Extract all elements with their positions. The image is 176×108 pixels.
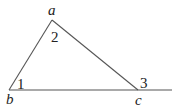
- angle-label-2: 2: [51, 29, 59, 45]
- vertex-label-c: c: [135, 92, 142, 108]
- side-ac: [52, 20, 138, 90]
- angle-label-1: 1: [17, 76, 25, 92]
- vertex-label-a: a: [48, 2, 56, 18]
- angle-label-3: 3: [140, 75, 148, 91]
- vertex-label-b: b: [6, 91, 14, 107]
- side-ab: [9, 20, 52, 90]
- triangle-diagram: a b c 2 1 3: [0, 0, 176, 108]
